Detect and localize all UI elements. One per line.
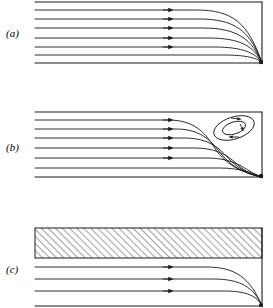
streamline-figure: (a) — [0, 0, 273, 308]
panel-b-eddy-arrow — [240, 124, 243, 130]
panel-b-streamline — [35, 158, 262, 177]
panel-c-diagram — [0, 216, 273, 308]
panel-c-streamline — [35, 267, 262, 306]
panel-c-streamline — [35, 279, 262, 306]
panel-b: (b) — [0, 104, 273, 216]
panel-b-streamline — [35, 168, 262, 177]
panel-a-streamline — [35, 38, 262, 63]
panel-a-stagnation-point — [259, 60, 263, 64]
panel-b-eddy-outer-loop — [211, 111, 258, 145]
panel-b-eddy-arrow — [231, 118, 240, 119]
panel-b-stagnation-point — [259, 174, 263, 178]
panel-a: (a) — [0, 0, 273, 104]
panel-c-streamline — [35, 291, 262, 306]
panel-c-stagnation-point — [259, 303, 263, 307]
panel-a-streamline — [35, 19, 262, 63]
panel-c-hatched-region — [35, 228, 262, 258]
panel-b-eddy-inner-loop — [221, 119, 248, 138]
panel-a-diagram — [0, 0, 273, 104]
panel-a-streamline — [35, 28, 262, 63]
panel-a-streamline — [35, 55, 262, 63]
panel-b-streamline — [35, 129, 262, 177]
panel-c: (c) — [0, 216, 273, 308]
panel-b-diagram — [0, 104, 273, 216]
